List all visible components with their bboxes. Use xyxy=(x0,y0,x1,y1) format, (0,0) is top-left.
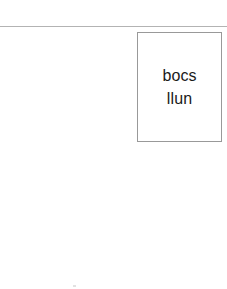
picture-box-label-line-2: llun xyxy=(167,88,192,110)
header-divider-rule xyxy=(0,26,227,27)
picture-box-label-line-1: bocs xyxy=(162,65,196,87)
picture-box-placeholder[interactable]: bocs llun xyxy=(137,32,222,142)
page-artifact-speck xyxy=(73,285,76,287)
document-page: bocs llun xyxy=(0,0,227,289)
